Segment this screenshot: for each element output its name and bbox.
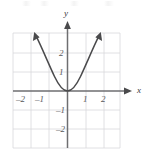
coordinate-plane — [0, 0, 148, 157]
y-tick-label--2: –2 — [56, 125, 65, 134]
y-tick-label-1: 1 — [59, 68, 64, 77]
x-tick-label--2: –2 — [16, 95, 25, 104]
y-axis-name: y — [64, 9, 68, 18]
x-axis-name: x — [137, 86, 141, 95]
graph-figure: –2 –1 1 2 2 1 –1 –2 y x — [0, 0, 148, 157]
y-tick-label-2: 2 — [59, 49, 64, 58]
x-tick-label-1: 1 — [83, 95, 88, 104]
y-tick-label--1: –1 — [56, 106, 65, 115]
x-tick-label-2: 2 — [101, 95, 106, 104]
x-tick-label--1: –1 — [35, 95, 44, 104]
